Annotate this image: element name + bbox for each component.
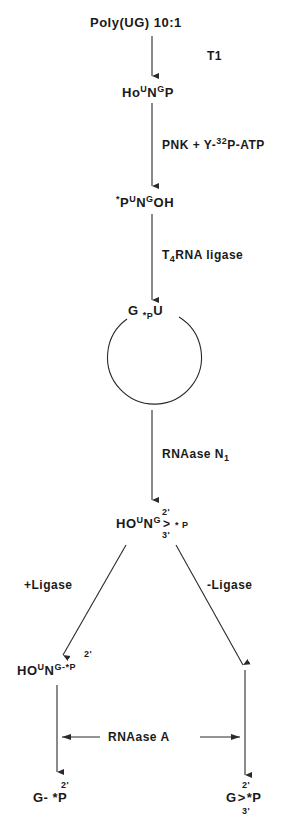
product-2prime-phosphate: HOUNG-*P [17, 662, 76, 678]
start-substrate: Poly(UG) 10:1 [90, 15, 182, 30]
final-product-left: G- *P [33, 790, 67, 805]
circular-rna [108, 317, 202, 404]
diagram-lines [0, 0, 300, 824]
final-product-right: G>*P [226, 790, 261, 805]
product-houngp: HoUNGP [122, 84, 174, 100]
product-labeled-oligo: *PUNGOH [116, 194, 174, 210]
enzyme-pnk: PNK + Y-32P-ATP [162, 136, 265, 152]
circle-label: G *PU [128, 303, 163, 318]
enzyme-t1: T1 [207, 49, 222, 63]
branch-label-plus-ligase: +Ligase [24, 578, 73, 592]
arrow-minus-ligase [176, 545, 243, 665]
final-left-2prime: 2' [61, 780, 69, 790]
final-right-3prime: 3' [242, 806, 250, 816]
enzyme-t4-rna-ligase: T4RNA ligase [162, 248, 243, 264]
enzyme-rnaase-a: RNAase A [108, 730, 170, 744]
product-cyclic-phosphate: HOUNG2'>3'* P [116, 515, 188, 531]
enzyme-rnaase-n1: RNAase N1 [162, 447, 230, 463]
branch-label-minus-ligase: -Ligase [207, 578, 253, 592]
final-right-2prime: 2' [242, 780, 250, 790]
arrow-plus-ligase [63, 545, 126, 655]
left-product-2prime: 2' [84, 649, 92, 659]
